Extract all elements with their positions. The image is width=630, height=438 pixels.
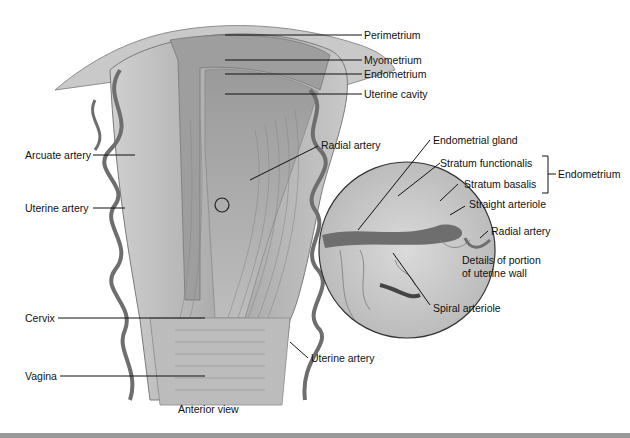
label-radial-artery-inset: Radial artery (491, 225, 551, 237)
label-endometrium: Endometrium (364, 68, 426, 80)
view-caption: Anterior view (178, 403, 239, 415)
label-vagina: Vagina (25, 370, 57, 382)
label-perimetrium: Perimetrium (364, 29, 421, 41)
label-spiral-arteriole: Spiral arteriole (433, 302, 501, 314)
uterus-illustration (0, 0, 630, 438)
label-endometrial-gland: Endometrial gland (433, 134, 518, 146)
label-stratum-basalis: Stratum basalis (464, 178, 536, 190)
label-uterine-cavity: Uterine cavity (364, 88, 428, 100)
label-arcuate-artery: Arcuate artery (25, 149, 91, 161)
label-radial-artery: Radial artery (321, 139, 381, 151)
label-straight-arteriole: Straight arteriole (469, 198, 546, 210)
inset-caption-line1: Details of portion (462, 254, 541, 266)
uterus-diagram: Perimetrium Myometrium Endometrium Uteri… (0, 0, 630, 438)
bottom-border (0, 433, 630, 438)
inset-caption-line2: of uterine wall (462, 267, 527, 279)
label-uterine-artery-left: Uterine artery (25, 202, 89, 214)
label-cervix: Cervix (25, 312, 55, 324)
label-myometrium: Myometrium (364, 54, 422, 66)
label-stratum-functionalis: Stratum functionalis (440, 157, 532, 169)
label-endometrium-bracket: Endometrium (558, 168, 620, 180)
label-uterine-artery-right: Uterine artery (311, 352, 375, 364)
